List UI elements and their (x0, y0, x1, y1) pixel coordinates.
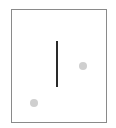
dot-right (79, 62, 87, 70)
dot-left (30, 99, 38, 107)
diagram-canvas (0, 0, 116, 128)
diagram-frame (11, 9, 107, 123)
vertical-line (56, 41, 58, 87)
